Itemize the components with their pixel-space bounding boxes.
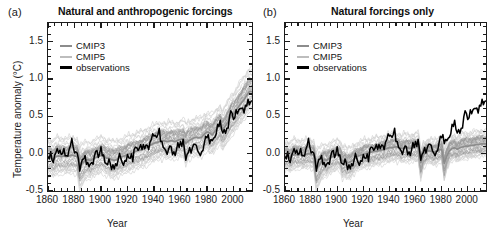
legend-entry-cmip5: CMIP5 (297, 52, 367, 62)
x-minor-tick (480, 188, 481, 191)
legend-swatch-cmip3 (60, 45, 72, 47)
x-minor-tick (297, 188, 298, 191)
x-minor-tick (61, 188, 62, 191)
x-minor-tick (160, 188, 161, 191)
y-minor-tick (483, 49, 486, 50)
y-major-tick (481, 116, 486, 117)
y-minor-tick (285, 86, 288, 87)
x-minor-tick (382, 23, 383, 26)
x-minor-tick (67, 23, 68, 26)
y-minor-tick (48, 161, 51, 162)
y-major-tick (48, 78, 53, 79)
x-major-tick (363, 186, 364, 191)
x-minor-tick (317, 188, 318, 191)
x-minor-tick (376, 188, 377, 191)
y-minor-tick (48, 101, 51, 102)
x-minor-tick (61, 23, 62, 26)
x-minor-tick (324, 188, 325, 191)
x-major-tick (127, 186, 128, 191)
panel-b-label: (b) (263, 6, 277, 18)
x-minor-tick (87, 188, 88, 191)
x-minor-tick (226, 23, 227, 26)
legend-entry-observations: observations (60, 63, 130, 73)
x-minor-tick (67, 188, 68, 191)
x-major-tick (100, 186, 101, 191)
y-major-tick (285, 78, 290, 79)
x-minor-tick (134, 23, 135, 26)
x-minor-tick (382, 188, 383, 191)
x-tick-label: 2000 (450, 194, 484, 205)
y-minor-tick (48, 71, 51, 72)
y-major-tick (481, 153, 486, 154)
x-minor-tick (239, 188, 240, 191)
x-major-tick (467, 23, 468, 28)
x-minor-tick (330, 23, 331, 26)
legend-swatch-cmip5 (60, 56, 72, 58)
legend-entry-observations: observations (297, 63, 367, 73)
x-minor-tick (434, 23, 435, 26)
x-minor-tick (395, 23, 396, 26)
y-minor-tick (483, 34, 486, 35)
x-major-tick (337, 186, 338, 191)
y-minor-tick (48, 168, 51, 169)
x-minor-tick (94, 188, 95, 191)
y-minor-tick (48, 123, 51, 124)
y-minor-tick (48, 56, 51, 57)
x-minor-tick (421, 23, 422, 26)
x-minor-tick (350, 23, 351, 26)
y-minor-tick (483, 86, 486, 87)
y-minor-tick (483, 123, 486, 124)
y-tick-label: 0.0 (17, 147, 43, 158)
y-major-tick (285, 190, 290, 191)
legend-entry-cmip5: CMIP5 (60, 52, 130, 62)
y-minor-tick (483, 168, 486, 169)
x-minor-tick (173, 23, 174, 26)
y-major-tick (481, 41, 486, 42)
x-minor-tick (200, 188, 201, 191)
legend-label-cmip5: CMIP5 (313, 52, 342, 62)
x-major-tick (153, 23, 154, 28)
x-axis-label: Year (107, 218, 127, 229)
x-major-tick (47, 186, 48, 191)
x-minor-tick (160, 23, 161, 26)
y-minor-tick (483, 131, 486, 132)
y-major-tick (48, 116, 53, 117)
x-minor-tick (480, 23, 481, 26)
x-minor-tick (402, 188, 403, 191)
x-minor-tick (461, 23, 462, 26)
x-minor-tick (343, 23, 344, 26)
x-minor-tick (167, 23, 168, 26)
y-tick-label: 0.5 (17, 109, 43, 120)
x-minor-tick (213, 23, 214, 26)
panel-a: (a) Natural and anthropogenic forcings T… (0, 0, 256, 238)
x-major-tick (284, 23, 285, 28)
y-minor-tick (483, 183, 486, 184)
x-minor-tick (304, 23, 305, 26)
x-minor-tick (81, 188, 82, 191)
x-minor-tick (454, 23, 455, 26)
x-major-tick (389, 23, 390, 28)
x-major-tick (233, 23, 234, 28)
y-minor-tick (285, 49, 288, 50)
y-minor-tick (48, 138, 51, 139)
x-minor-tick (408, 188, 409, 191)
y-minor-tick (285, 161, 288, 162)
legend-swatch-observations (297, 66, 309, 69)
x-minor-tick (213, 188, 214, 191)
x-major-tick (467, 186, 468, 191)
y-minor-tick (48, 49, 51, 50)
y-minor-tick (48, 183, 51, 184)
x-minor-tick (434, 188, 435, 191)
x-minor-tick (330, 188, 331, 191)
x-minor-tick (317, 23, 318, 26)
y-tick-label: 1.5 (254, 35, 280, 46)
x-minor-tick (87, 23, 88, 26)
x-minor-tick (147, 188, 148, 191)
y-major-tick (285, 41, 290, 42)
x-minor-tick (356, 23, 357, 26)
x-minor-tick (193, 23, 194, 26)
y-minor-tick (285, 175, 288, 176)
figure-climate-attribution: (a) Natural and anthropogenic forcings T… (0, 0, 499, 238)
y-minor-tick (285, 183, 288, 184)
legend-label-observations: observations (313, 63, 367, 73)
